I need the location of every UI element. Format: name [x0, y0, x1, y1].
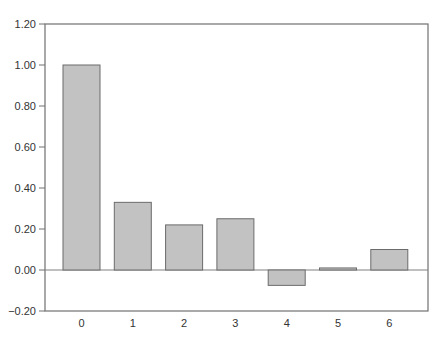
x-tick-label: 4 [284, 317, 290, 329]
y-tick-label: 1.00 [15, 59, 36, 71]
bar-4 [268, 270, 305, 285]
bar-chart: −0.200.000.200.400.600.801.001.20 012345… [0, 0, 444, 342]
y-tick-label: 0.60 [15, 141, 36, 153]
x-tick-label: 6 [386, 317, 392, 329]
bars [63, 65, 408, 285]
x-tick-label: 3 [232, 317, 238, 329]
x-axis: 0123456 [78, 317, 392, 329]
bar-6 [371, 250, 408, 271]
bar-5 [320, 268, 357, 270]
x-tick-label: 1 [130, 317, 136, 329]
y-tick-label: 0.20 [15, 223, 36, 235]
bar-1 [114, 202, 151, 270]
y-axis: −0.200.000.200.400.600.801.001.20 [8, 18, 45, 317]
bar-3 [217, 219, 254, 270]
bar-2 [166, 225, 203, 270]
x-tick-label: 2 [181, 317, 187, 329]
y-tick-label: 1.20 [15, 18, 36, 30]
bar-0 [63, 65, 100, 270]
x-tick-label: 0 [78, 317, 84, 329]
y-tick-label: 0.00 [15, 264, 36, 276]
x-tick-label: 5 [335, 317, 341, 329]
y-tick-label: 0.40 [15, 182, 36, 194]
y-tick-label: 0.80 [15, 100, 36, 112]
y-tick-label: −0.20 [8, 305, 36, 317]
